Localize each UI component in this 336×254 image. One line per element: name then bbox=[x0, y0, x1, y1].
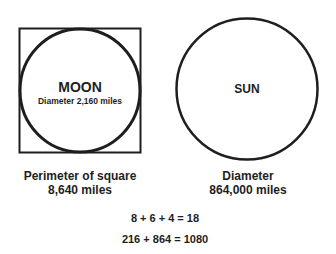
moon-label: MOON bbox=[19, 80, 141, 94]
moon-sun-diagram: MOON Diameter 2,160 miles SUN Perimeter … bbox=[0, 0, 336, 254]
equation-sum: 216 + 864 = 1080 bbox=[100, 233, 230, 245]
moon-caption-line1: Perimeter of square bbox=[10, 169, 150, 183]
moon-caption: Perimeter of square 8,640 miles bbox=[10, 169, 150, 197]
moon-caption-line2: 8,640 miles bbox=[10, 183, 150, 197]
equation-digit-sum: 8 + 6 + 4 = 18 bbox=[100, 212, 230, 224]
sun-caption-line1: Diameter bbox=[186, 169, 310, 183]
moon-diameter-label: Diameter 2,160 miles bbox=[19, 97, 141, 106]
sun-label: SUN bbox=[176, 83, 318, 95]
sun-caption: Diameter 864,000 miles bbox=[186, 169, 310, 197]
sun-caption-line2: 864,000 miles bbox=[186, 183, 310, 197]
